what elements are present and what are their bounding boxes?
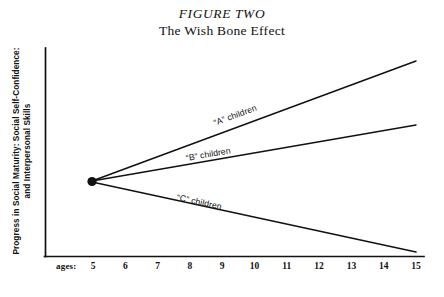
x-tick-label: 8 (179, 261, 201, 271)
x-tick-label: 10 (244, 261, 266, 271)
x-axis-caption: ages: (56, 261, 77, 271)
figure-container: FIGURE TWO The Wish Bone Effect Progress… (0, 0, 444, 297)
x-tick-label: 5 (82, 261, 104, 271)
x-tick-label: 12 (308, 261, 330, 271)
x-tick-label: 9 (211, 261, 233, 271)
x-tick-label: 15 (405, 261, 427, 271)
x-tick-label: 13 (340, 261, 362, 271)
series-line-b-children (92, 125, 416, 181)
origin-point-marker (87, 177, 96, 186)
x-tick-label: 11 (276, 261, 298, 271)
x-tick-label: 7 (147, 261, 169, 271)
series-line-c-children (92, 182, 416, 252)
series-line-a-children (92, 61, 416, 181)
x-tick-label: 14 (373, 261, 395, 271)
x-tick-label: 6 (114, 261, 136, 271)
